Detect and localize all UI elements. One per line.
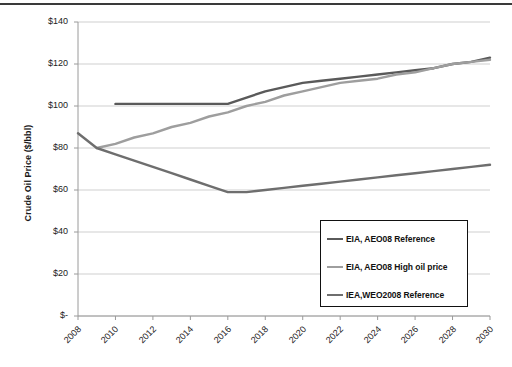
x-tick-marks <box>78 316 490 320</box>
legend-label-iea-reference: IEA,WEO2008 Reference <box>346 290 444 300</box>
y-tick-marks <box>74 22 78 316</box>
y-tick-label: $- <box>26 310 68 320</box>
legend-label-eia-high-oil-price: EIA, AEO08 High oil price <box>346 262 447 272</box>
legend-item-iea-reference: IEA,WEO2008 Reference <box>327 289 444 301</box>
legend-item-eia-reference: EIA, AEO08 Reference <box>327 233 435 245</box>
data-series <box>78 58 490 192</box>
legend-swatch-eia-reference <box>327 238 343 241</box>
y-tick-label: $120 <box>26 58 68 68</box>
legend-swatch-eia-high-oil-price <box>327 266 343 269</box>
legend-label-eia-reference: EIA, AEO08 Reference <box>346 234 435 244</box>
chart-legend: EIA, AEO08 Reference EIA, AEO08 High oil… <box>320 220 468 307</box>
y-tick-label: $40 <box>26 226 68 236</box>
y-tick-label: $20 <box>26 268 68 278</box>
line-chart-canvas <box>0 0 512 367</box>
y-tick-label: $60 <box>26 184 68 194</box>
y-tick-label: $80 <box>26 142 68 152</box>
legend-swatch-iea-reference <box>327 294 343 297</box>
y-tick-label: $140 <box>26 16 68 26</box>
chart-page: Crude Oil Price ($/bbl) $-$20$40$60$80$1… <box>0 0 512 367</box>
legend-item-eia-high-oil-price: EIA, AEO08 High oil price <box>327 261 447 273</box>
y-tick-label: $100 <box>26 100 68 110</box>
